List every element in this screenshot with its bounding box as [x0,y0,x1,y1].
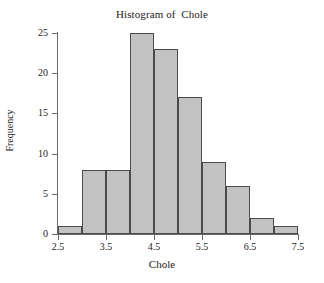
x-axis-tick-mark [298,235,299,240]
x-axis-tick-label: 7.5 [292,242,305,252]
x-axis-tick-label: 6.5 [244,242,257,252]
x-axis-line [57,234,299,235]
x-axis-tick-label: 2.5 [52,242,65,252]
x-axis-tick-mark [202,235,203,240]
y-axis-tick-label: 20 [38,68,48,78]
y-axis-tick-mark [52,194,57,195]
histogram-bar [58,226,82,234]
histogram-bar [250,218,274,234]
y-axis-tick-label: 25 [38,28,48,38]
chart-title: Histogram of Chole [0,8,324,20]
histogram-bar [154,49,178,234]
x-axis-tick-mark [106,235,107,240]
histogram-bar [106,170,130,234]
y-axis-tick-mark [52,73,57,74]
y-axis-tick-mark [52,113,57,114]
histogram-bar [202,162,226,234]
x-axis-tick-label: 5.5 [196,242,209,252]
histogram-bar [82,170,106,234]
plot-area [58,33,298,234]
y-axis-tick-label: 0 [43,229,48,239]
histogram-bar [178,97,202,234]
x-axis-tick-mark [250,235,251,240]
x-axis-tick-label: 4.5 [148,242,161,252]
y-axis-tick-mark [52,234,57,235]
x-axis-tick-mark [154,235,155,240]
y-axis-tick-label: 15 [38,108,48,118]
y-axis-tick-label: 5 [43,189,48,199]
x-axis-title: Chole [0,258,324,270]
histogram-bar [130,33,154,234]
y-axis-tick-mark [52,33,57,34]
x-axis-tick-label: 3.5 [100,242,113,252]
y-axis-title: Frequency [4,101,15,161]
y-axis-tick-mark [52,154,57,155]
histogram-chart: Histogram of Chole 0510152025 2.53.54.55… [0,0,324,283]
histogram-bar [226,186,250,234]
histogram-bar [274,226,298,234]
y-axis-tick-label: 10 [38,149,48,159]
x-axis-tick-mark [58,235,59,240]
